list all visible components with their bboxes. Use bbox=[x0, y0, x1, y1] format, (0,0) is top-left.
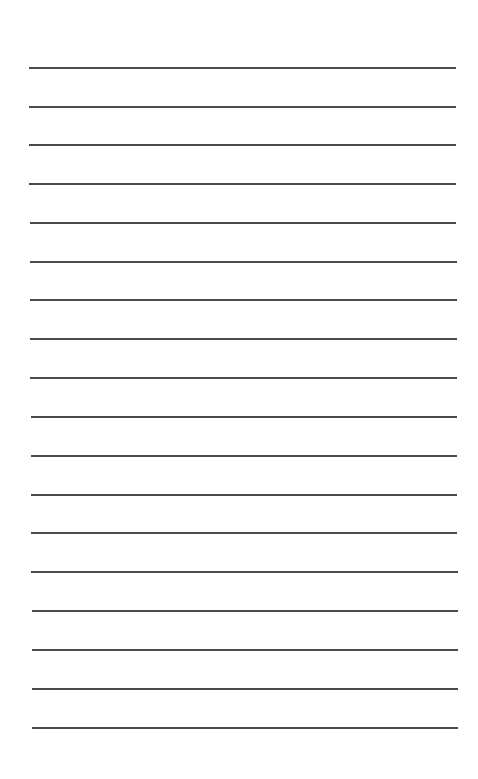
ruled-line bbox=[31, 532, 457, 534]
ruled-line bbox=[32, 688, 458, 690]
ruled-line bbox=[29, 183, 456, 185]
ruled-line bbox=[32, 649, 458, 651]
ruled-line bbox=[31, 455, 457, 457]
ruled-line bbox=[29, 67, 456, 69]
ruled-line bbox=[30, 338, 457, 340]
ruled-line bbox=[32, 610, 458, 612]
ruled-line bbox=[31, 416, 457, 418]
ruled-line bbox=[29, 144, 456, 146]
ruled-line bbox=[31, 571, 458, 573]
ruled-line bbox=[30, 299, 457, 301]
ruled-line bbox=[30, 222, 456, 224]
ruled-line bbox=[30, 377, 457, 379]
ruled-line bbox=[30, 261, 457, 263]
ruled-line bbox=[29, 106, 456, 108]
ruled-line bbox=[31, 494, 457, 496]
ruled-line bbox=[32, 727, 458, 729]
